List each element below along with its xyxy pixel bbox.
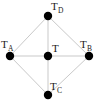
node-label-tc-main: T xyxy=(50,80,57,92)
node-label-td-main: T xyxy=(51,0,58,12)
graph-node-tc xyxy=(44,91,52,99)
diagram-canvas: TD TA TB T TC xyxy=(0,0,100,105)
node-label-ta-main: T xyxy=(1,38,8,50)
node-label-tb: TB xyxy=(80,39,92,50)
node-label-tc-sub: C xyxy=(57,86,62,95)
graph-node-t xyxy=(44,52,52,60)
graph-edge-tc-ta xyxy=(10,56,48,95)
node-label-t: T xyxy=(52,43,59,54)
graph-edge-ta-td xyxy=(10,16,48,56)
graph-node-ta xyxy=(6,52,14,60)
node-label-tc: TC xyxy=(50,81,62,92)
node-label-tb-main: T xyxy=(80,38,87,50)
node-label-ta-sub: A xyxy=(8,44,13,53)
node-label-td: TD xyxy=(51,1,63,12)
node-label-t-main: T xyxy=(52,42,59,54)
graph-node-td xyxy=(44,12,52,20)
graph-node-tb xyxy=(85,52,93,60)
node-label-tb-sub: B xyxy=(87,44,92,53)
node-label-ta: TA xyxy=(1,39,13,50)
node-label-td-sub: D xyxy=(58,6,63,15)
